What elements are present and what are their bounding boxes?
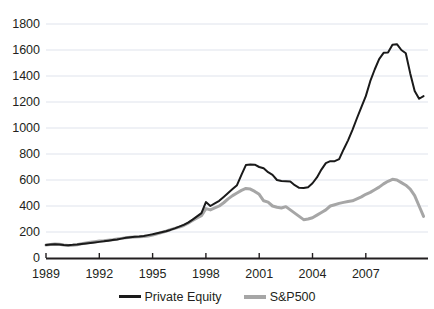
legend-item-private-equity: Private Equity [119,291,222,304]
y-axis-tick-label: 400 [19,200,40,213]
legend-swatch-private-equity [119,295,141,298]
x-axis-tick-label: 1995 [139,268,167,281]
y-axis-tick-label: 1400 [12,70,40,83]
y-axis-tick-label: 600 [19,174,40,187]
x-axis-ticks [46,253,366,258]
x-axis-tick-label: 1998 [192,268,220,281]
y-axis-tick-label: 1000 [12,122,40,135]
data-series [46,44,424,245]
x-axis-tick-label: 2004 [299,268,327,281]
legend-item-sp500: S&P500 [244,291,316,304]
series-line-s-p500 [46,179,424,245]
y-axis-tick-label: 1800 [12,18,40,31]
chart-container: 180016001400120010008006004002000 198919… [0,0,434,309]
chart-plot [0,0,434,309]
x-axis-tick-label: 2001 [245,268,273,281]
y-axis-tick-label: 1200 [12,96,40,109]
x-axis-tick-label: 1992 [85,268,113,281]
legend-label-sp500: S&P500 [270,291,316,304]
y-axis-tick-label: 1600 [12,44,40,57]
x-axis-tick-label: 2007 [352,268,380,281]
y-axis-tick-label: 200 [19,226,40,239]
x-axis-tick-label: 1989 [32,268,60,281]
legend-swatch-sp500 [244,295,266,299]
gridlines [46,24,428,232]
y-axis-tick-label: 0 [33,252,40,265]
legend-label-private-equity: Private Equity [145,291,222,304]
series-line-private-equity [46,44,424,245]
y-axis-tick-label: 800 [19,148,40,161]
chart-legend: Private Equity S&P500 [0,291,434,304]
